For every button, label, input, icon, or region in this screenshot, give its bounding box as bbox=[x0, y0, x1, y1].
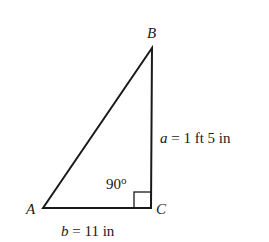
triangle bbox=[43, 48, 152, 208]
right-angle-marker bbox=[134, 192, 151, 208]
angle-value: 90 bbox=[106, 176, 121, 192]
vertex-label-b: B bbox=[147, 25, 156, 41]
vertex-label-c: C bbox=[156, 201, 167, 217]
side-a-var: a bbox=[160, 130, 168, 146]
side-a-value: = 1 ft 5 in bbox=[168, 130, 232, 146]
vertex-label-a: A bbox=[25, 201, 36, 217]
side-b-value: = 11 in bbox=[69, 223, 115, 239]
side-b-label: b = 11 in bbox=[61, 223, 115, 239]
angle-label: 90o bbox=[106, 174, 127, 192]
degree-symbol: o bbox=[121, 174, 127, 186]
triangle-diagram: B A C 90o a = 1 ft 5 in b = 11 in bbox=[0, 0, 269, 242]
side-a-label: a = 1 ft 5 in bbox=[160, 130, 231, 146]
